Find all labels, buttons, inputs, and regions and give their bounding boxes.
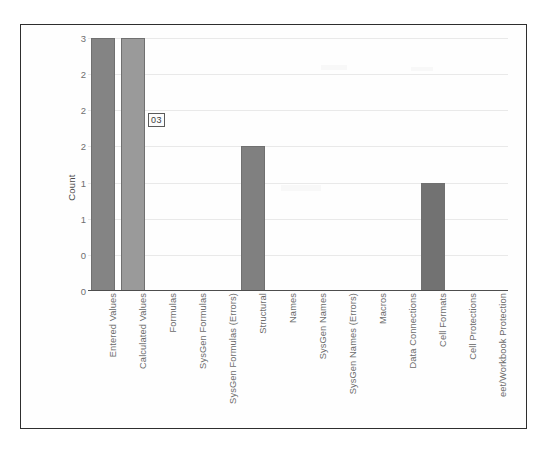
x-axis-label-slot: Formulas	[148, 293, 178, 443]
bar-slot[interactable]	[88, 38, 118, 291]
x-axis-tick-label: Cell Formats	[438, 293, 448, 347]
bar[interactable]	[91, 38, 115, 291]
bar-slot[interactable]	[238, 38, 268, 291]
x-axis-tick-label: Entered Values	[108, 293, 118, 357]
x-axis-tick-label: Names	[288, 293, 298, 323]
bar-slot[interactable]	[298, 38, 328, 291]
bar[interactable]	[121, 38, 145, 291]
x-axis-label-slot: eet/Workbook Protection	[478, 293, 508, 443]
x-axis-tick-label: SysGen Formulas (Errors)	[228, 293, 238, 404]
bar-slot[interactable]	[478, 38, 508, 291]
y-axis-tick-label: 1	[60, 213, 86, 224]
x-axis-baseline	[88, 290, 508, 292]
x-axis-tick-label: Calculated Values	[138, 293, 148, 369]
data-label-tooltip: 03	[148, 113, 165, 127]
bar-slot[interactable]	[328, 38, 358, 291]
bar-slot[interactable]	[418, 38, 448, 291]
x-axis-tick-label: Macros	[378, 293, 388, 324]
plot-area	[88, 38, 508, 291]
x-axis-label-slot: Cell Protections	[448, 293, 478, 443]
x-axis-tick-label: SysGen Names	[318, 293, 328, 359]
bar-slot[interactable]	[358, 38, 388, 291]
bar-slot[interactable]	[388, 38, 418, 291]
bar-slot[interactable]	[148, 38, 178, 291]
bar[interactable]	[421, 183, 445, 291]
x-axis-label-slot: Calculated Values	[118, 293, 148, 443]
y-axis-tick-label: 2	[60, 69, 86, 80]
bar-slot[interactable]	[448, 38, 478, 291]
x-axis-label-slot: SysGen Names	[298, 293, 328, 443]
x-axis-label-slot: Entered Values	[88, 293, 118, 443]
x-axis-label-slot: SysGen Formulas (Errors)	[208, 293, 238, 443]
bar-slot[interactable]	[118, 38, 148, 291]
x-axis-tick-label: SysGen Formulas	[198, 293, 208, 369]
x-axis-label-slot: Structural	[238, 293, 268, 443]
bar-slot[interactable]	[208, 38, 238, 291]
x-axis-label-slot: Macros	[358, 293, 388, 443]
y-axis-tick-label: 2	[60, 105, 86, 116]
y-axis-tick-label: 0	[60, 249, 86, 260]
x-axis-tick-label: SysGen Names (Errors)	[348, 293, 358, 394]
x-axis-label-slot: Cell Formats	[418, 293, 448, 443]
x-axis-label-slot: SysGen Formulas	[178, 293, 208, 443]
x-axis-tick-label: Structural	[258, 293, 268, 334]
y-axis-tick-label: 0	[60, 286, 86, 297]
y-axis-tick-label: 1	[60, 177, 86, 188]
bars-layer	[88, 38, 508, 291]
x-axis-tick-label: Formulas	[168, 293, 178, 333]
x-axis-label-slot: SysGen Names (Errors)	[328, 293, 358, 443]
bar-slot[interactable]	[268, 38, 298, 291]
x-axis-tick-label: Cell Protections	[468, 293, 478, 360]
x-axis-labels: Entered ValuesCalculated ValuesFormulasS…	[88, 293, 508, 443]
bar-slot[interactable]	[178, 38, 208, 291]
x-axis-label-slot: Names	[268, 293, 298, 443]
x-axis-tick-label: Data Connections	[408, 293, 418, 369]
y-axis-ticks: 32221100	[60, 38, 86, 291]
bar[interactable]	[241, 146, 265, 291]
y-axis-tick-label: 2	[60, 141, 86, 152]
x-axis-tick-label: eet/Workbook Protection	[498, 293, 508, 397]
y-axis-tick-label: 3	[60, 33, 86, 44]
x-axis-label-slot: Data Connections	[388, 293, 418, 443]
